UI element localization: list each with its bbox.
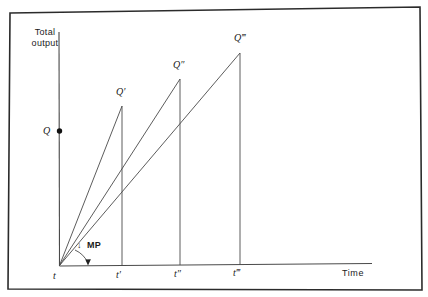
q-level-dot [57, 128, 62, 133]
tick-label-t: t [53, 270, 56, 282]
x-axis [60, 264, 373, 267]
point-label-q1: Q′ [116, 86, 125, 98]
x-axis-title: Time [342, 268, 364, 279]
point-label-q3: Q‴ [234, 32, 245, 44]
tick-label-t3: t‴ [233, 267, 240, 279]
ray-to-q2 [60, 79, 181, 266]
figure-border [8, 7, 422, 290]
y-axis-title-line1: Total [24, 27, 66, 38]
mp-arrow-icon: ↓ [77, 240, 82, 251]
tick-label-t2: t″ [174, 268, 181, 280]
y-axis [59, 32, 60, 266]
figure-container: Total output Q Q′ Q″ Q‴ t t′ t″ t‴ ↓ MP … [0, 0, 428, 297]
q-level-label: Q [43, 125, 50, 137]
point-label-q2: Q″ [173, 59, 184, 71]
mp-label: MP [87, 240, 101, 251]
ray-to-q3 [60, 53, 241, 266]
y-axis-title-line2: output [24, 38, 66, 49]
tick-label-t1: t′ [116, 269, 121, 281]
mp-arc-arrowhead [85, 259, 91, 265]
